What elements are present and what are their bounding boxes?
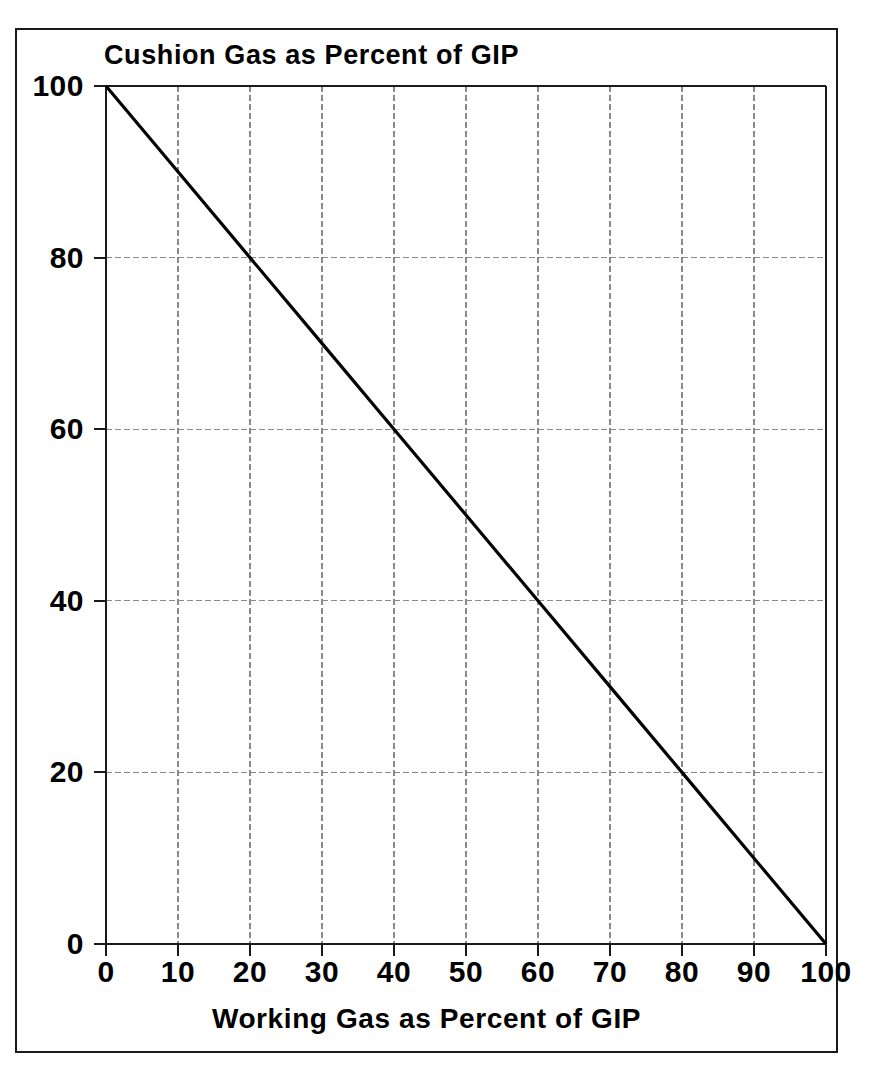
y-tick-label: 20 [50, 755, 84, 789]
vertical-gridlines [178, 86, 826, 944]
tick-marks [94, 86, 826, 956]
x-tick-label: 30 [305, 955, 339, 989]
y-tick-label: 100 [32, 69, 84, 103]
x-tick-label: 0 [97, 955, 114, 989]
x-tick-label: 50 [449, 955, 483, 989]
x-tick-label: 80 [665, 955, 699, 989]
y-tick-label: 40 [50, 584, 84, 618]
x-tick-label: 10 [161, 955, 195, 989]
chart-title: Cushion Gas as Percent of GIP [104, 40, 519, 71]
plot-canvas [106, 86, 826, 944]
x-tick-label: 20 [233, 955, 267, 989]
x-tick-label: 70 [593, 955, 627, 989]
x-tick-label: 100 [800, 955, 852, 989]
x-tick-label: 40 [377, 955, 411, 989]
y-tick-label: 80 [50, 241, 84, 275]
chart-figure: Cushion Gas as Percent of GIP 0204060801… [0, 0, 882, 1082]
x-tick-label: 90 [737, 955, 771, 989]
y-tick-label: 60 [50, 412, 84, 446]
y-tick-label: 0 [67, 927, 84, 961]
plot-area [106, 86, 826, 944]
x-axis-tick-labels: 0102030405060708090100 [106, 955, 826, 995]
x-tick-label: 60 [521, 955, 555, 989]
x-axis-title: Working Gas as Percent of GIP [15, 1003, 838, 1035]
y-axis-tick-labels: 020406080100 [0, 86, 84, 944]
